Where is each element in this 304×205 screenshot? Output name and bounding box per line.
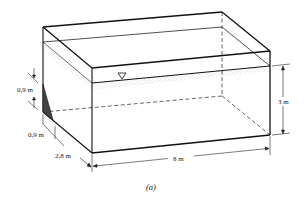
figure-caption: (a): [146, 182, 156, 192]
dim-width: [80, 158, 91, 167]
tank-diagram: 0,9 m 0,9 m 2,8 m 8 m 3 m (a): [0, 0, 304, 205]
water-line-back: [43, 27, 222, 42]
dim-width-label: 2,8 m: [55, 152, 72, 160]
dim-length-label: 8 m: [173, 155, 184, 163]
dim-depth-label: 3 m: [278, 98, 289, 106]
dim-gate-lower-label: 0,9 m: [28, 131, 45, 139]
water-surface-symbol-icon: [118, 73, 126, 79]
water-line-right: [222, 27, 270, 66]
dim-gate-upper-label: 0,9 m: [17, 86, 34, 94]
water-surface-band: [43, 42, 270, 90]
triangular-gate: [43, 84, 53, 120]
dim-gate-lower: [43, 114, 64, 146]
dim-length: [92, 136, 270, 172]
